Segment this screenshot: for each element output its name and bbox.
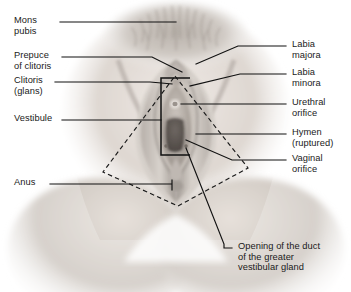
label-labia-majora: Labia majora: [292, 39, 321, 60]
label-greater-vestibular-gland-duct: Opening of the duct of the greater vesti…: [238, 241, 320, 273]
greater-vestibular-duct-opening-left: [164, 144, 167, 147]
label-vestibule: Vestibule: [14, 113, 52, 124]
label-clitoris-glans: Clitoris (glans): [14, 75, 43, 96]
label-prepuce-of-clitoris: Prepuce of clitoris: [14, 50, 51, 71]
label-mons-pubis: Mons pubis: [14, 15, 37, 36]
urethral-opening: [172, 102, 177, 106]
label-anus: Anus: [14, 177, 35, 188]
greater-vestibular-duct-opening-right: [184, 144, 187, 147]
label-labia-minora: Labia minora: [292, 67, 321, 88]
label-vaginal-orifice: Vaginal orifice: [292, 153, 323, 174]
label-hymen-ruptured: Hymen (ruptured): [292, 127, 333, 148]
label-urethral-orifice: Urethral orifice: [292, 97, 325, 118]
vaginal-orifice: [165, 118, 186, 153]
